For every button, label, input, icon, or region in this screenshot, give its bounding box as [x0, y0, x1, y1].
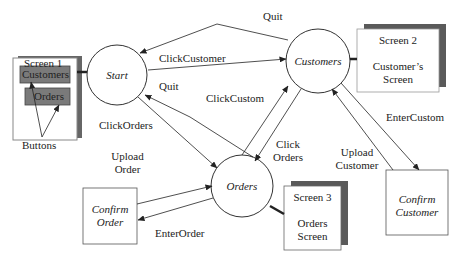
- screen3-line2: Screen: [284, 230, 341, 243]
- transition-upload-order-1: Upload: [105, 150, 150, 163]
- state-start-label: Start: [97, 69, 137, 82]
- state-orders-label: Orders: [217, 180, 267, 193]
- state-customers-label: Customers: [288, 55, 348, 68]
- transition-quit-top: Quit: [263, 10, 283, 23]
- transition-click-custom: ClickCustom: [206, 92, 264, 105]
- transition-click-customer: ClickCustomer: [159, 52, 226, 65]
- confirm-order-line2: Order: [83, 216, 137, 229]
- buttons-callout: Buttons: [22, 139, 56, 152]
- screen3-line1: Orders: [284, 217, 341, 230]
- transition-upload-customer-2: Customer: [328, 159, 386, 172]
- transition-upload-order-2: Order: [105, 163, 150, 176]
- transition-click-orders-right-2: Orders: [268, 151, 308, 164]
- transition-quit-mid: Quit: [159, 80, 179, 93]
- transition-click-orders-left: ClickOrders: [99, 119, 153, 132]
- confirm-customer-line1: Confirm: [386, 193, 448, 206]
- screen2-line1: Customer’s: [357, 60, 439, 73]
- screen2-title: Screen 2: [357, 34, 439, 47]
- screen3-title: Screen 3: [284, 191, 341, 204]
- screen2-line2: Screen: [357, 73, 439, 86]
- confirm-order-line1: Confirm: [83, 203, 137, 216]
- confirm-customer-line2: Customer: [386, 206, 448, 219]
- transition-upload-customer-1: Upload: [328, 146, 386, 159]
- orders-button-label[interactable]: Orders: [34, 90, 64, 103]
- transition-enter-order: EnterOrder: [155, 227, 204, 240]
- transition-click-orders-right-1: Click: [268, 138, 308, 151]
- customers-button-label[interactable]: Customers: [22, 68, 69, 81]
- transition-enter-custom: EnterCustom: [386, 111, 444, 124]
